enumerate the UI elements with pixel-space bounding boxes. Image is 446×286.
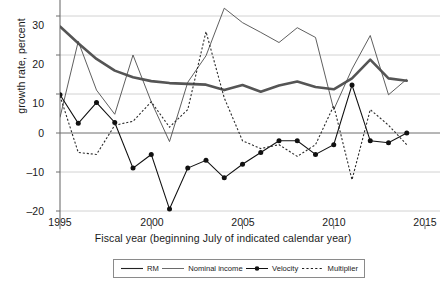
legend-item-multiplier[interactable]: Multiplier <box>301 264 358 273</box>
legend-label-multiplier: Multiplier <box>328 264 358 273</box>
series-marker-velocity <box>112 120 117 125</box>
legend-swatch-nominal-income-icon <box>161 264 185 273</box>
legend-label-rm: RM <box>147 264 159 273</box>
series-marker-velocity <box>386 140 391 145</box>
series-marker-velocity <box>149 152 154 157</box>
legend-item-velocity[interactable]: Velocity <box>245 264 298 273</box>
series-marker-velocity <box>131 166 136 171</box>
series-marker-velocity <box>368 138 373 143</box>
legend-label-nominal-income: Nominal income <box>188 264 242 273</box>
legend-swatch-multiplier-icon <box>301 264 325 273</box>
series-marker-velocity <box>277 138 282 143</box>
series-marker-velocity <box>331 142 336 147</box>
x-axis-label: Fiscal year (beginning July of indicated… <box>0 232 446 244</box>
series-marker-velocity <box>185 166 190 171</box>
legend-item-nominal-income[interactable]: Nominal income <box>161 264 242 273</box>
series-marker-velocity <box>404 131 409 136</box>
series-line-multiplier <box>60 32 407 180</box>
series-marker-velocity <box>222 175 227 180</box>
series-line-rm <box>60 27 407 92</box>
legend-item-rm[interactable]: RM <box>120 264 159 273</box>
chart-figure: growth rate, percent 30 20 10 0 –10 –20 … <box>0 0 446 286</box>
series-marker-velocity <box>167 207 172 212</box>
legend-swatch-rm-icon <box>120 264 144 273</box>
series-marker-velocity <box>313 152 318 157</box>
series-marker-velocity <box>350 83 355 88</box>
series-marker-velocity <box>295 138 300 143</box>
series-line-velocity <box>60 85 407 209</box>
series-marker-velocity <box>76 121 81 126</box>
series-marker-velocity <box>240 162 245 167</box>
series-marker-velocity <box>258 150 263 155</box>
legend-swatch-velocity-icon <box>245 264 269 273</box>
chart-legend: RM Nominal income Velocity Multiplier <box>113 259 365 278</box>
series-marker-velocity <box>94 100 99 105</box>
legend-label-velocity: Velocity <box>272 264 298 273</box>
series-marker-velocity <box>204 158 209 163</box>
